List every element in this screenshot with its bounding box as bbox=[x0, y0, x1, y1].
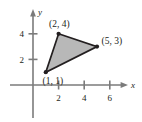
x-tick-label-2: 2 bbox=[56, 93, 61, 103]
y-axis-label: y bbox=[37, 7, 42, 17]
y-tick-label-4: 4 bbox=[20, 29, 25, 39]
vertex-label-right: (5, 3) bbox=[102, 36, 123, 47]
x-axis-label: x bbox=[130, 80, 135, 90]
vertex-dot-1-1 bbox=[44, 70, 48, 74]
vertex-label-top: (2, 4) bbox=[49, 19, 70, 30]
x-tick-label-4: 4 bbox=[82, 93, 87, 103]
x-tick-label-6: 6 bbox=[108, 93, 113, 103]
vertex-dot-5-3 bbox=[95, 45, 99, 49]
vertex-label-bottom-left: (1, 1) bbox=[43, 76, 64, 87]
y-tick-label-2: 2 bbox=[20, 55, 25, 65]
vertex-dot-2-4 bbox=[57, 32, 61, 36]
coordinate-plane-figure: 2 4 6 2 4 x y (1, 1) (2, 4) (5, 3) bbox=[0, 0, 142, 122]
